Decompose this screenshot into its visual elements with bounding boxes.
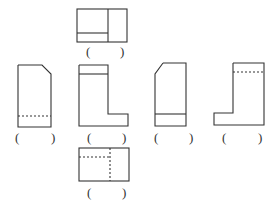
front-view-open-paren: ( xyxy=(87,131,91,144)
views-diagram xyxy=(0,0,275,214)
right-view-open-paren: ( xyxy=(154,131,158,144)
rear-view-open-paren: ( xyxy=(222,131,226,144)
rear-view xyxy=(214,63,264,125)
left-view-open-paren: ( xyxy=(15,131,19,144)
left-view-close-paren: ) xyxy=(51,131,55,144)
right-view-close-paren: ) xyxy=(189,131,193,144)
left-view xyxy=(18,65,51,127)
front-view-close-paren: ) xyxy=(122,131,126,144)
top-view-open-paren: ( xyxy=(86,45,90,58)
right-view xyxy=(155,63,186,126)
top-view-close-paren: ) xyxy=(120,45,124,58)
bottom-view-close-paren: ) xyxy=(122,186,126,199)
front-view xyxy=(79,65,128,126)
rear-view-close-paren: ) xyxy=(258,131,262,144)
bottom-view-open-paren: ( xyxy=(87,186,91,199)
top-view xyxy=(77,9,127,42)
bottom-view xyxy=(79,148,129,181)
